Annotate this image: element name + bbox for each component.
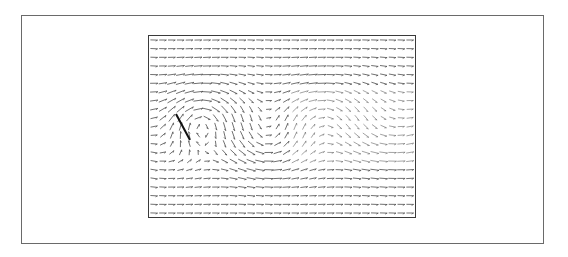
vector-arrow <box>292 150 298 155</box>
reference-vector <box>176 114 190 140</box>
vector-arrow <box>159 107 166 111</box>
vector-arrow <box>328 143 334 144</box>
vector-arrow <box>362 160 370 162</box>
vector-arrow <box>238 178 246 180</box>
vector-arrow <box>294 132 297 139</box>
vector-arrow <box>380 143 388 144</box>
vector-arrow <box>353 187 361 188</box>
arrow-head <box>377 153 379 154</box>
vector-arrow <box>188 123 190 130</box>
vector-arrow <box>389 126 396 127</box>
vector-arrow <box>398 74 405 75</box>
arrow-head <box>262 162 264 163</box>
vector-arrow <box>231 106 236 113</box>
vector-arrow <box>371 187 379 188</box>
vector-arrow <box>170 123 174 130</box>
vector-arrow <box>248 91 254 94</box>
vector-arrow <box>327 108 334 110</box>
vector-arrow <box>276 124 279 129</box>
vector-arrow <box>239 90 246 93</box>
arrow-head <box>359 162 361 163</box>
vector-arrow <box>336 108 342 111</box>
arrow-head <box>244 179 246 180</box>
vector-arrow <box>239 82 246 84</box>
vector-arrow <box>256 74 263 75</box>
vector-arrow <box>389 100 395 102</box>
vector-arrow <box>363 82 370 84</box>
vector-arrow <box>389 66 396 67</box>
vector-arrow <box>336 161 343 162</box>
vector-arrow <box>293 115 297 121</box>
vector-arrow <box>337 124 342 128</box>
vector-arrow <box>344 160 352 162</box>
vector-arrow <box>372 116 377 120</box>
vector-arrow <box>371 152 379 154</box>
vector-arrow <box>204 116 211 119</box>
vector-arrow <box>202 100 211 101</box>
vector-arrow <box>389 117 395 119</box>
vector-arrow <box>303 132 306 138</box>
vector-arrow <box>355 115 359 120</box>
vector-arrow <box>302 150 307 155</box>
vector-arrow <box>247 187 255 188</box>
vector-arrow <box>247 169 256 171</box>
vector-arrow <box>238 195 246 196</box>
vector-arrow <box>221 98 229 103</box>
vector-arrow <box>230 82 238 84</box>
vector-arrow <box>362 187 370 188</box>
vector-arrow <box>389 83 396 85</box>
vector-arrow <box>380 74 387 75</box>
arrow-head <box>252 146 254 147</box>
vector-arrow <box>248 66 255 67</box>
vector-arrow <box>240 140 245 147</box>
vector-arrow <box>372 125 377 129</box>
vector-arrow <box>179 150 181 155</box>
vector-arrow <box>379 178 387 179</box>
vector-arrow <box>202 108 211 110</box>
vector-arrow <box>371 74 378 75</box>
vector-arrow <box>169 114 175 121</box>
vector-arrow <box>302 115 307 121</box>
vector-arrow <box>230 159 237 163</box>
vector-arrow <box>212 107 220 112</box>
arrow-head <box>385 84 387 85</box>
vector-arrow <box>213 160 219 162</box>
vector-arrow <box>380 57 387 58</box>
vector-arrow <box>362 151 370 154</box>
arrow-head <box>218 93 220 94</box>
arrow-head <box>261 93 263 94</box>
vector-arrow <box>389 91 395 93</box>
vector-arrow <box>345 151 352 154</box>
vector-arrow <box>230 66 238 67</box>
vector-arrow <box>293 141 297 147</box>
vector-arrow <box>239 150 246 156</box>
vector-arrow <box>230 98 237 103</box>
vector-arrow <box>344 74 352 75</box>
vector-arrow <box>345 99 351 103</box>
vector-arrow <box>294 123 297 130</box>
vector-arrow <box>239 74 246 75</box>
vector-arrow <box>362 74 369 75</box>
vector-arrow <box>231 140 235 147</box>
vector-arrow <box>311 141 315 146</box>
vector-arrow <box>353 169 361 170</box>
arrow-head <box>385 136 387 137</box>
vector-arrow <box>381 108 386 111</box>
vector-arrow <box>202 92 212 93</box>
vector-arrow <box>151 178 158 179</box>
arrow-head <box>192 115 193 117</box>
vector-arrow <box>168 98 176 103</box>
vector-arrow <box>230 187 238 188</box>
arrow-head <box>252 84 254 85</box>
vector-arrow <box>185 107 193 112</box>
vector-arrow <box>362 178 370 179</box>
vector-arrow <box>337 116 342 120</box>
vector-arrow <box>370 160 379 161</box>
quiver-plot <box>0 0 568 257</box>
vector-arrow <box>311 124 315 129</box>
vector-arrow <box>239 66 246 67</box>
vector-arrow <box>381 99 387 102</box>
vector-arrow <box>328 126 334 128</box>
vector-arrow <box>257 99 262 102</box>
vector-arrow <box>213 115 218 122</box>
